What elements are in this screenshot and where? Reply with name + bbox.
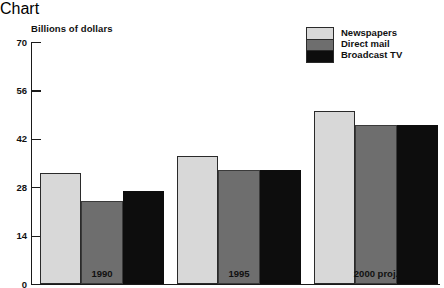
x-label-1990: 1990 — [91, 268, 112, 279]
legend-swatch-broadcast-tv — [307, 51, 333, 62]
x-label-1995: 1995 — [228, 268, 249, 279]
bar-2000-proj--direct-mail — [355, 125, 396, 284]
legend-swatch-stack — [306, 27, 334, 63]
bar-chart: Billions of dollars 01428425670 19901995… — [0, 18, 444, 288]
y-tick-label-14: 14 — [16, 231, 27, 242]
legend-swatch-newspapers — [307, 28, 333, 40]
legend: NewspapersDirect mailBroadcast TV — [306, 27, 402, 63]
bar-2000-proj--broadcast-tv — [397, 125, 438, 284]
y-tick-label-56: 56 — [16, 85, 27, 96]
y-tick-label-0: 0 — [22, 279, 27, 288]
bar-1995-newspapers — [177, 156, 218, 284]
x-axis-line — [31, 284, 440, 285]
bar-1990-newspapers — [40, 173, 81, 284]
y-tick-56: 56 — [32, 90, 41, 91]
bar-1990-broadcast-tv — [123, 191, 164, 284]
legend-label-stack: NewspapersDirect mailBroadcast TV — [341, 27, 402, 61]
bar-2000-proj--newspapers — [314, 111, 355, 284]
y-axis-title: Billions of dollars — [31, 23, 113, 34]
legend-label-broadcast-tv: Broadcast TV — [341, 49, 402, 60]
y-tick-label-42: 42 — [16, 134, 27, 145]
plot-area: 01428425670 — [31, 42, 440, 284]
y-tick-label-28: 28 — [16, 182, 27, 193]
legend-label-newspapers: Newspapers — [341, 27, 402, 38]
x-label-2000-proj-: 2000 proj. — [354, 268, 398, 279]
legend-label-direct-mail: Direct mail — [341, 38, 402, 49]
y-tick-42: 42 — [32, 139, 41, 140]
bar-1995-broadcast-tv — [260, 170, 301, 284]
y-axis-line — [31, 42, 32, 284]
y-tick-label-70: 70 — [16, 37, 27, 48]
legend-swatch-direct-mail — [307, 40, 333, 52]
bar-1995-direct-mail — [218, 170, 259, 284]
y-tick-70: 70 — [32, 42, 41, 43]
